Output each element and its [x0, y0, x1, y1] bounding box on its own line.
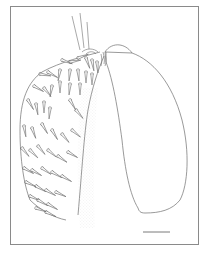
specimen-illustration	[0, 0, 207, 253]
smooth-lobe	[105, 45, 187, 213]
joint-detail	[82, 49, 106, 66]
apical-setae	[72, 13, 89, 50]
